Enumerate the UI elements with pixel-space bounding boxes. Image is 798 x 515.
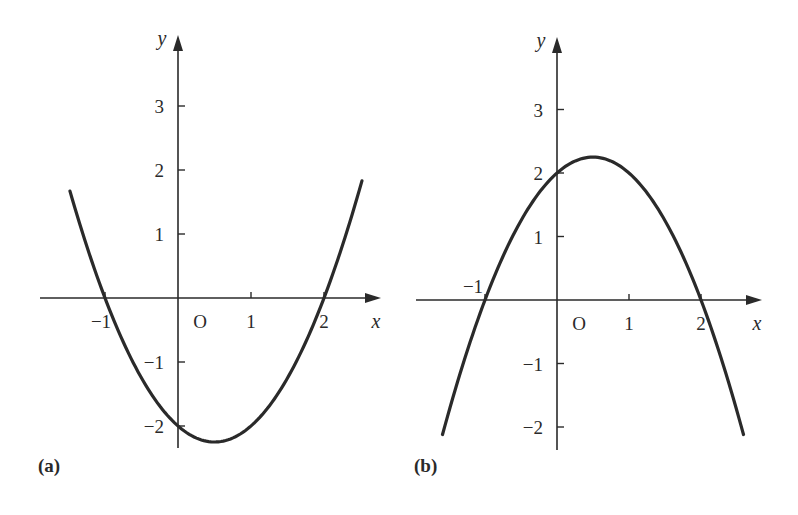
y-axis-label: y — [156, 27, 167, 50]
y-tick-label: 3 — [155, 96, 165, 117]
x-tick-label: −1 — [91, 311, 111, 332]
x-tick-label: 1 — [624, 313, 634, 334]
panel-label: (a) — [38, 455, 60, 477]
y-tick-label: −1 — [144, 352, 164, 373]
y-axis-arrow-icon — [552, 37, 562, 53]
y-tick-label: 1 — [534, 227, 544, 248]
y-axis-label: y — [535, 29, 546, 52]
x-tick-label: −1 — [463, 276, 483, 297]
parabola-curve — [443, 157, 744, 434]
origin-label: O — [193, 311, 207, 332]
chart-panel-a: −112321−1−2Oxy(a) — [38, 27, 381, 477]
x-axis-arrow-icon — [746, 295, 762, 305]
panel-label: (b) — [414, 455, 437, 477]
y-tick-label: −2 — [144, 416, 164, 437]
x-axis-label: x — [752, 312, 762, 334]
origin-label: O — [572, 313, 586, 334]
x-axis-label: x — [371, 310, 381, 332]
x-tick-label: 1 — [246, 311, 256, 332]
figure-canvas: −112321−1−2Oxy(a) −112321−1−2Oxy(b) — [0, 0, 798, 515]
y-tick-label: 2 — [534, 163, 544, 184]
y-tick-label: 3 — [534, 100, 544, 121]
x-axis-arrow-icon — [365, 293, 381, 303]
parabola-curve — [70, 181, 362, 442]
y-tick-label: −1 — [523, 354, 543, 375]
x-tick-label: 2 — [696, 313, 706, 334]
y-tick-label: 2 — [155, 160, 165, 181]
chart-panel-b: −112321−1−2Oxy(b) — [414, 29, 762, 477]
y-tick-label: 1 — [155, 224, 165, 245]
y-axis-arrow-icon — [173, 35, 183, 51]
y-tick-label: −2 — [523, 417, 543, 438]
x-tick-label: 2 — [319, 311, 329, 332]
